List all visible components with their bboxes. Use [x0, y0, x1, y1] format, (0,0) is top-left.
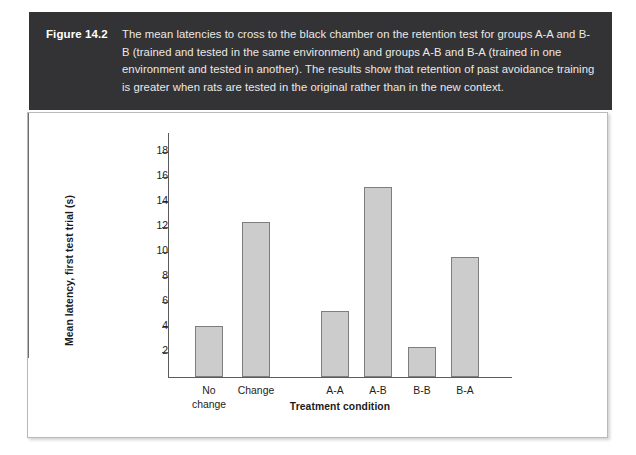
y-axis-tick-label-wrap: 8	[132, 277, 168, 278]
x-axis-line	[168, 377, 512, 378]
figure-number-label: Figure 14.2	[46, 26, 122, 44]
y-axis-tick-label: 16	[146, 170, 168, 181]
y-axis-tick-label-wrap: 14	[132, 202, 168, 203]
x-axis-title: Treatment condition	[168, 401, 512, 412]
group-divider-line	[28, 113, 29, 358]
y-axis-tick-label-wrap: 10	[132, 252, 168, 253]
y-axis-tick-label: 4	[146, 320, 168, 331]
bar	[451, 257, 479, 377]
x-axis-tick-label: B-A	[430, 384, 500, 398]
y-axis-tick-label-wrap: 6	[132, 302, 168, 303]
y-axis-line	[168, 133, 169, 378]
bar	[408, 347, 436, 377]
y-axis-tick-label: 2	[146, 345, 168, 356]
x-axis-tick-label: Change	[221, 384, 291, 398]
bar	[364, 187, 392, 377]
figure-container: Figure 14.2 The mean latencies to cross …	[0, 0, 636, 455]
y-axis-tick-label-wrap: 12	[132, 227, 168, 228]
y-axis-tick-label-wrap: 2	[132, 352, 168, 353]
y-axis-tick-label: 10	[146, 245, 168, 256]
y-axis-title: Mean latency, first test trial (s)	[64, 176, 75, 366]
y-axis-tick-label-wrap: 18	[132, 152, 168, 153]
bar	[321, 311, 349, 377]
chart-panel: Mean latency, first test trial (s) 24681…	[27, 112, 608, 438]
y-axis-tick-label-wrap: 16	[132, 177, 168, 178]
bar	[242, 222, 270, 377]
chart-surface: Mean latency, first test trial (s) 24681…	[28, 113, 609, 439]
figure-caption-text: The mean latencies to cross to the black…	[122, 26, 596, 96]
figure-caption-band: Figure 14.2 The mean latencies to cross …	[29, 12, 612, 110]
y-axis-tick-label: 18	[146, 145, 168, 156]
bar	[195, 326, 223, 377]
y-axis-tick-label: 6	[146, 295, 168, 306]
y-axis-tick-label: 12	[146, 220, 168, 231]
y-axis-tick-label: 8	[146, 270, 168, 281]
y-axis-tick-label: 14	[146, 195, 168, 206]
y-axis-tick-label-wrap: 4	[132, 327, 168, 328]
